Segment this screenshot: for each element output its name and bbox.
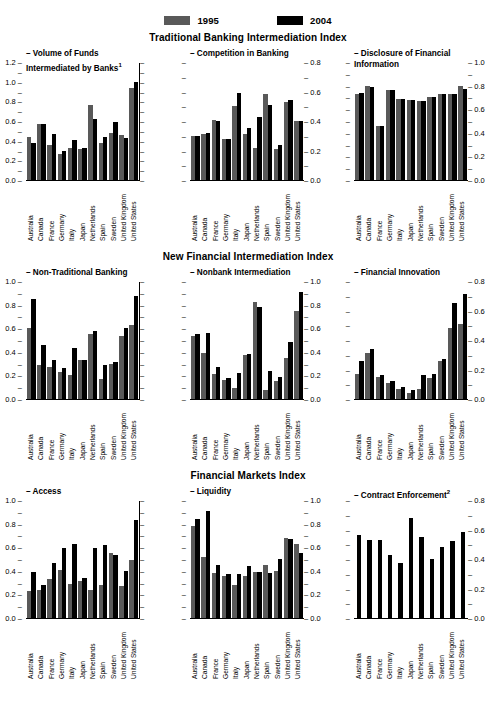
y-axis-tick-mark: – xyxy=(182,177,186,185)
bar-group xyxy=(88,282,97,399)
bar-2004 xyxy=(103,365,107,399)
bar-2004 xyxy=(237,93,241,180)
bar-group xyxy=(430,501,434,618)
y-axis-minor-tick: – xyxy=(140,89,144,97)
y-axis-minor-tick: – xyxy=(18,361,22,369)
y-axis-tick-mark: – xyxy=(140,158,144,166)
section-title: Financial Markets Index xyxy=(0,470,496,481)
y-axis-minor-tick: – xyxy=(468,542,472,550)
bar-2004 xyxy=(52,134,56,180)
x-axis-tick-label: United Kingdom xyxy=(449,183,456,241)
bar-group xyxy=(396,63,405,180)
panel-title: – Competition in Banking xyxy=(190,49,289,60)
bar-group xyxy=(243,501,252,618)
bar-2004 xyxy=(432,97,436,180)
plot-area xyxy=(354,63,468,181)
plot-area xyxy=(190,501,304,619)
bar-2004 xyxy=(411,390,415,399)
y-axis-tick-mark: – xyxy=(182,592,186,600)
y-axis-minor-tick: – xyxy=(140,290,144,298)
y-axis-minor-tick: – xyxy=(346,165,350,173)
legend-label-2004: 2004 xyxy=(310,15,332,26)
bar-2004 xyxy=(113,555,117,618)
y-axis-tick: 0.6 – xyxy=(5,325,22,333)
bar-2004 xyxy=(134,82,138,180)
x-axis-tick-label: Italy xyxy=(397,621,404,679)
bar-2004 xyxy=(124,138,128,180)
bar-2004 xyxy=(206,133,210,180)
bar-group xyxy=(119,282,128,399)
chart-sections: Traditional Banking Intermediation Index… xyxy=(0,32,496,687)
bar-2004 xyxy=(432,374,436,399)
y-axis-unlabeled: ––––––––– xyxy=(332,501,350,619)
bar-2004 xyxy=(41,585,45,618)
y-axis-tick-mark: – xyxy=(182,396,186,404)
x-axis-tick-label: Germany xyxy=(59,402,66,460)
bar-2004 xyxy=(31,572,35,618)
bar-group xyxy=(201,282,210,399)
y-axis-minor-tick: – xyxy=(346,512,350,520)
y-axis-tick-mark: – xyxy=(182,497,186,505)
y-axis-tick: 1.0 – xyxy=(5,497,22,505)
plot-area xyxy=(26,501,140,619)
bar-group xyxy=(274,501,283,618)
bar-2004 xyxy=(463,89,467,180)
y-axis-tick-mark: – xyxy=(140,59,144,67)
x-axis-tick-label: Australia xyxy=(28,183,35,241)
y-axis-minor-tick: – xyxy=(18,533,22,541)
x-axis-tick-label: United Kingdom xyxy=(285,183,292,241)
chart-panel: – Nonbank Intermediation– 0.0–– 0.2–– 0.… xyxy=(168,268,326,468)
bar-group xyxy=(386,282,395,399)
y-axis-labeled: – 0.0–– 0.2–– 0.4–– 0.6–– 0.8–– 1.0 xyxy=(304,282,326,400)
bar-group xyxy=(119,501,128,618)
x-axis-tick-label: Canada xyxy=(202,183,209,241)
x-axis-tick-label: United Kingdom xyxy=(121,402,128,460)
bar-group xyxy=(396,282,405,399)
y-axis-tick-mark: – xyxy=(346,177,350,185)
y-axis-minor-tick: – xyxy=(18,384,22,392)
bar-group xyxy=(294,501,303,618)
x-axis-tick-label: Australia xyxy=(28,621,35,679)
bar-group xyxy=(417,63,426,180)
section-title: New Financial Intermediation Index xyxy=(0,251,496,262)
y-axis-labeled: – 0.0–– 0.2–– 0.4–– 0.6–– 0.8 xyxy=(304,63,326,181)
y-axis-tick: 0.4 – xyxy=(5,349,22,357)
panel-title: – Volume of FundsIntermediated by Banks1 xyxy=(26,49,122,74)
bar-group xyxy=(448,282,457,399)
bar-group xyxy=(27,63,36,180)
x-axis-tick-label: Netherlands xyxy=(90,183,97,241)
bar-2004 xyxy=(401,387,405,399)
bar-group xyxy=(129,282,138,399)
y-axis-tick: – 0.8 xyxy=(304,521,321,529)
bar-group xyxy=(129,501,138,618)
chart-panel: – Contract Enforcement2– 0.0–– 0.2–– 0.4… xyxy=(332,487,490,687)
x-axis-tick-label: United States xyxy=(131,621,138,679)
bar-2004 xyxy=(299,553,303,618)
bar-group xyxy=(419,501,423,618)
x-axis-tick-label: Australia xyxy=(192,621,199,679)
y-axis-minor-tick: – xyxy=(182,533,186,541)
bar-2004 xyxy=(442,94,446,180)
bar-2004 xyxy=(452,303,456,399)
bar-group xyxy=(129,63,138,180)
y-axis-tick: – 0.6 xyxy=(304,89,321,97)
x-axis-tick-label: France xyxy=(377,183,384,241)
bar-2004 xyxy=(359,361,363,399)
y-axis-unlabeled: ––––––––– xyxy=(332,282,350,400)
y-axis-minor-tick: – xyxy=(468,142,472,150)
bar-2004 xyxy=(367,540,371,618)
x-axis-tick-label: Japan xyxy=(408,621,415,679)
bar-group xyxy=(212,282,221,399)
y-axis-minor-tick: – xyxy=(468,323,472,331)
bar-2004 xyxy=(378,540,382,618)
bar-group xyxy=(294,63,303,180)
y-axis-tick-mark: – xyxy=(182,89,186,97)
y-axis-tick: – 0.8 xyxy=(468,83,485,91)
y-axis-tick: 0.8 – xyxy=(5,99,22,107)
y-axis-minor-tick: – xyxy=(18,337,22,345)
y-axis-tick-mark: – xyxy=(140,615,144,623)
y-axis-minor-tick: – xyxy=(304,533,308,541)
y-axis-minor-tick: – xyxy=(140,108,144,116)
x-axis-categories: AustraliaCanadaFranceGermanyItalyJapanNe… xyxy=(26,183,140,243)
bar-group xyxy=(232,63,241,180)
